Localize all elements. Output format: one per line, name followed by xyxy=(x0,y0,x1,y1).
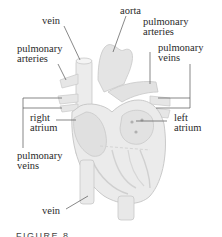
label-vein-bottom: vein xyxy=(42,206,60,216)
label-left-atrium: left atrium xyxy=(174,113,201,133)
label-pulmonary-arteries-right: pulmonary arteries xyxy=(143,17,189,37)
label-right-atrium: right atrium xyxy=(30,113,57,133)
figure-caption: FIGURE 8 xyxy=(16,231,70,237)
label-aorta: aorta xyxy=(120,6,141,16)
label-vein-top: vein xyxy=(42,16,60,26)
label-pulmonary-veins-right: pulmonary veins xyxy=(158,43,204,63)
label-pulmonary-arteries-left: pulmonary arteries xyxy=(17,44,63,64)
label-pulmonary-veins-left: pulmonary veins xyxy=(17,151,63,171)
heart-diagram: vein aorta pulmonary arteries pulmonary … xyxy=(0,0,222,237)
